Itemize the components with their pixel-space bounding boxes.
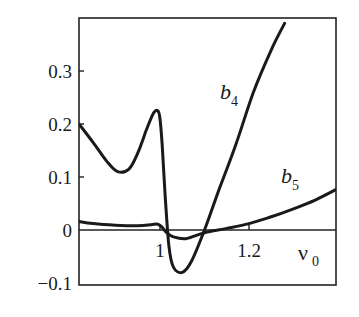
curve-b4 [79, 23, 285, 272]
y-axis-ticks: 0.30.20.10−0.1 [38, 61, 84, 294]
y-tick-label: 0 [63, 220, 73, 241]
y-tick-label: −0.1 [38, 273, 72, 294]
x-axis-label: ν 0 [298, 240, 319, 269]
curve-label-b5: b5 [281, 163, 299, 193]
curve-label-b4: b4 [220, 79, 238, 109]
x-tick-label: 1.2 [237, 240, 261, 261]
y-tick-label: 0.1 [48, 167, 72, 188]
chart-canvas: 0.30.20.10−0.1 11.2 b4 b5 ν 0 [0, 0, 359, 317]
x-tick-label: 1 [155, 240, 165, 261]
y-tick-label: 0.3 [48, 61, 72, 82]
y-tick-label: 0.2 [48, 114, 72, 135]
curve-b5 [79, 190, 336, 239]
